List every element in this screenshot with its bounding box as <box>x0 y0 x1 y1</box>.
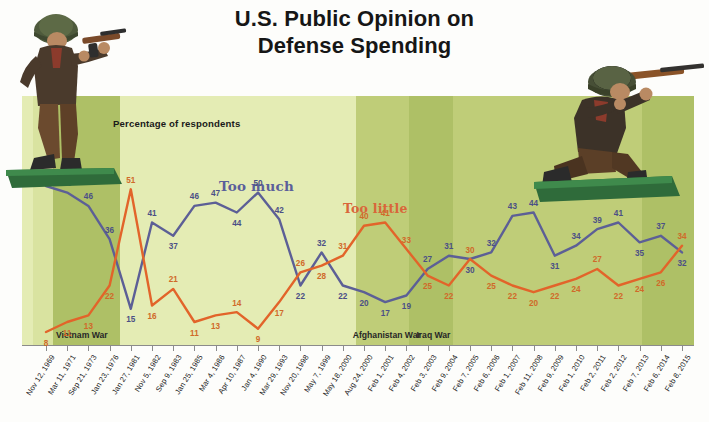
x-axis-line <box>22 345 694 346</box>
value-label-too-much: 17 <box>381 308 390 317</box>
value-label-too-much: 27 <box>423 255 432 264</box>
x-axis-tick <box>364 345 365 351</box>
value-label-too-much: 22 <box>296 292 305 301</box>
value-label-too-much: 46 <box>190 192 199 201</box>
value-label-too-much: 19 <box>402 302 411 311</box>
value-label-too-little: 22 <box>614 292 623 301</box>
value-label-too-much: 32 <box>317 238 326 247</box>
value-label-too-little: 22 <box>105 292 114 301</box>
value-label-too-little: 33 <box>402 235 411 244</box>
x-axis-tick <box>385 345 386 351</box>
value-label-too-little: 11 <box>190 328 199 337</box>
x-axis-tick <box>491 345 492 351</box>
value-label-too-little: 31 <box>338 242 347 251</box>
x-axis-tick <box>343 345 344 351</box>
x-axis-tick <box>67 345 68 351</box>
page-title: U.S. Public Opinion on Defense Spending <box>0 6 709 60</box>
x-axis-tick <box>682 345 683 351</box>
x-axis-tick <box>258 345 259 351</box>
value-label-too-little: 28 <box>317 272 326 281</box>
x-axis-tick <box>279 345 280 351</box>
value-label-too-little: 30 <box>465 245 474 254</box>
value-label-too-little: 22 <box>550 292 559 301</box>
y-axis-label: Percentage of respondents <box>113 118 240 129</box>
title-line-1: U.S. Public Opinion on <box>0 6 709 33</box>
title-line-2: Defense Spending <box>0 33 709 60</box>
value-label-too-little: 26 <box>296 258 305 267</box>
value-label-too-little: 14 <box>232 298 241 307</box>
value-label-too-little: 21 <box>169 275 178 284</box>
value-label-too-much: 41 <box>147 209 156 218</box>
x-axis-tick <box>110 345 111 351</box>
value-label-too-little: 22 <box>508 292 517 301</box>
x-axis-tick <box>661 345 662 351</box>
x-axis-tick <box>512 345 513 351</box>
x-axis-tick <box>300 345 301 351</box>
x-axis-tick <box>152 345 153 351</box>
x-axis-tick <box>237 345 238 351</box>
value-label-too-much: 37 <box>169 242 178 251</box>
value-label-too-much: 15 <box>126 315 135 324</box>
value-label-too-much: 30 <box>465 265 474 274</box>
x-axis-tick <box>406 345 407 351</box>
value-label-too-little: 25 <box>487 282 496 291</box>
value-label-too-little: 22 <box>444 292 453 301</box>
x-axis-tick <box>449 345 450 351</box>
value-label-too-much: 37 <box>656 222 665 231</box>
x-axis-tick <box>131 345 132 351</box>
value-label-too-little: 20 <box>529 298 538 307</box>
value-label-too-little: 26 <box>656 278 665 287</box>
value-label-too-much: 32 <box>677 258 686 267</box>
value-label-too-much: 35 <box>635 248 644 257</box>
value-label-too-little: 11 <box>63 328 72 337</box>
soldier-figurine-right-icon <box>520 56 709 208</box>
war-band-label: Afghanistan War <box>353 330 421 340</box>
x-axis-tick <box>534 345 535 351</box>
value-label-too-little: 17 <box>275 308 284 317</box>
value-label-too-little: 41 <box>381 209 390 218</box>
value-label-too-little: 27 <box>593 255 602 264</box>
value-label-too-little: 24 <box>635 285 644 294</box>
value-label-too-little: 13 <box>211 321 220 330</box>
x-axis-tick <box>555 345 556 351</box>
value-label-too-much: 22 <box>338 292 347 301</box>
infographic-canvas: U.S. Public Opinion on Defense Spending … <box>0 0 709 422</box>
value-label-too-much: 31 <box>550 262 559 271</box>
value-label-too-little: 8 <box>44 338 49 347</box>
x-axis-tick <box>470 345 471 351</box>
value-label-too-little: 34 <box>677 232 686 241</box>
x-axis-tick <box>88 345 89 351</box>
value-label-too-little: 40 <box>359 212 368 221</box>
series-label-too-little: Too little <box>343 201 408 216</box>
value-label-too-much: 47 <box>211 189 220 198</box>
x-axis-tick <box>173 345 174 351</box>
x-axis-tick <box>618 345 619 351</box>
value-label-too-much: 39 <box>593 215 602 224</box>
value-label-too-much: 20 <box>359 298 368 307</box>
war-band-label: Iraq War <box>416 330 450 340</box>
x-axis-tick <box>194 345 195 351</box>
x-axis-tick <box>216 345 217 351</box>
x-axis-tick <box>428 345 429 351</box>
x-axis-tick <box>640 345 641 351</box>
value-label-too-little: 25 <box>423 282 432 291</box>
x-axis-tick <box>576 345 577 351</box>
value-label-too-much: 43 <box>508 202 517 211</box>
value-label-too-much: 42 <box>275 205 284 214</box>
value-label-too-much: 41 <box>614 209 623 218</box>
value-label-too-much: 50 <box>253 179 262 188</box>
value-label-too-little: 16 <box>147 311 156 320</box>
value-label-too-little: 9 <box>256 335 261 344</box>
value-label-too-much: 34 <box>571 232 580 241</box>
value-label-too-much: 44 <box>232 219 241 228</box>
value-label-too-much: 31 <box>444 242 453 251</box>
x-axis-tick <box>322 345 323 351</box>
value-label-too-much: 36 <box>105 225 114 234</box>
value-label-too-little: 24 <box>571 285 580 294</box>
value-label-too-little: 13 <box>84 321 93 330</box>
value-label-too-much: 32 <box>487 238 496 247</box>
x-axis-tick <box>597 345 598 351</box>
